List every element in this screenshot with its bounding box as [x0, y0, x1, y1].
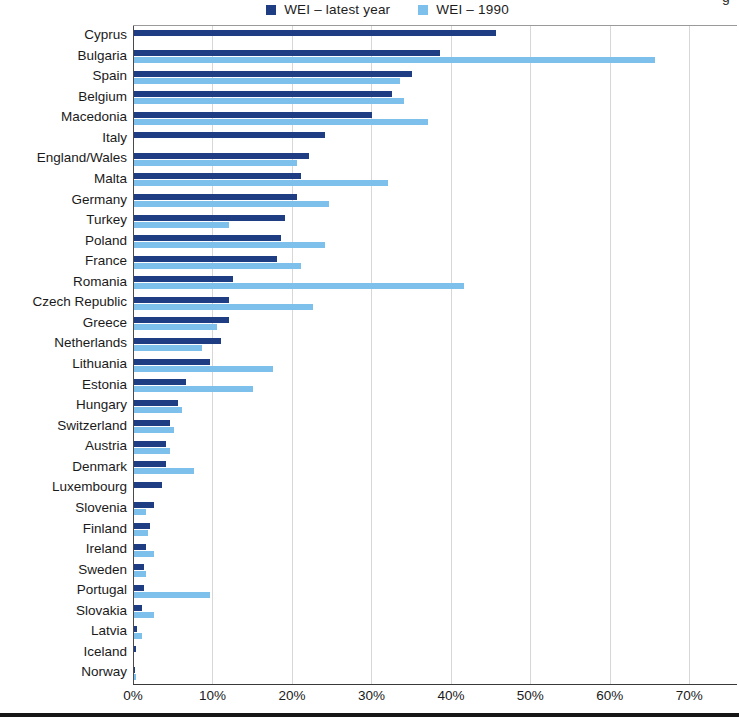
category-label: Iceland	[0, 642, 127, 663]
x-tick-label: 20%	[278, 688, 305, 703]
x-tick-label: 60%	[596, 688, 623, 703]
bar-latest	[134, 30, 496, 36]
bar-latest	[134, 605, 142, 611]
bar-1990	[134, 180, 388, 186]
category-label: Italy	[0, 128, 127, 149]
category-label: Sweden	[0, 560, 127, 581]
bar-1990	[134, 119, 428, 125]
bar-1990	[134, 242, 325, 248]
bar-1990	[134, 551, 154, 557]
bar-1990	[134, 674, 136, 680]
bar-latest	[134, 646, 136, 652]
bar-1990	[134, 263, 301, 269]
bar-1990	[134, 366, 273, 372]
bar-latest	[134, 276, 233, 282]
category-label: Portugal	[0, 580, 127, 601]
category-axis: CyprusBulgariaSpainBelgiumMacedoniaItaly…	[0, 25, 127, 683]
bar-latest	[134, 132, 325, 138]
bar-1990	[134, 468, 194, 474]
bar-1990	[134, 407, 182, 413]
bar-latest	[134, 215, 285, 221]
x-tick-label: 10%	[199, 688, 226, 703]
x-tick-label: 70%	[676, 688, 703, 703]
bar-latest	[134, 359, 210, 365]
bar-latest	[134, 420, 170, 426]
bar-latest	[134, 50, 440, 56]
category-label: Bulgaria	[0, 46, 127, 67]
plot-area	[133, 25, 737, 685]
chart-legend: WEI – latest year WEI – 1990	[0, 2, 739, 17]
gridline-50	[530, 26, 531, 684]
category-label: Czech Republic	[0, 292, 127, 313]
bar-latest	[134, 626, 137, 632]
bar-1990	[134, 448, 170, 454]
bar-latest	[134, 400, 178, 406]
category-label: England/Wales	[0, 148, 127, 169]
category-label: Spain	[0, 66, 127, 87]
category-label: Belgium	[0, 87, 127, 108]
category-label: Norway	[0, 662, 127, 683]
bar-latest	[134, 173, 301, 179]
legend-label-latest: WEI – latest year	[284, 2, 390, 17]
category-label: Latvia	[0, 621, 127, 642]
value-axis: 0%10%20%30%40%50%60%70%	[133, 688, 737, 708]
category-label: Austria	[0, 436, 127, 457]
category-label: Lithuania	[0, 354, 127, 375]
bar-latest	[134, 153, 309, 159]
bar-1990	[134, 304, 313, 310]
bar-latest	[134, 544, 146, 550]
gridline-70	[689, 26, 690, 684]
bar-latest	[134, 297, 229, 303]
bar-latest	[134, 91, 392, 97]
category-label: Romania	[0, 272, 127, 293]
bar-1990	[134, 509, 146, 515]
bar-1990	[134, 571, 146, 577]
bar-1990	[134, 612, 154, 618]
bar-1990	[134, 386, 253, 392]
category-label: Switzerland	[0, 416, 127, 437]
legend-label-1990: WEI – 1990	[436, 2, 509, 17]
category-label: Slovakia	[0, 601, 127, 622]
bar-latest	[134, 317, 229, 323]
bar-latest	[134, 585, 144, 591]
category-label: Poland	[0, 231, 127, 252]
legend-swatch-1990-icon	[418, 5, 428, 15]
category-label: Cyprus	[0, 25, 127, 46]
category-label: France	[0, 251, 127, 272]
legend-entry-latest: WEI – latest year	[266, 2, 390, 17]
x-tick-label: 40%	[437, 688, 464, 703]
category-label: Germany	[0, 190, 127, 211]
category-label: Luxembourg	[0, 477, 127, 498]
bar-1990	[134, 592, 210, 598]
bar-1990	[134, 324, 217, 330]
bar-latest	[134, 71, 412, 77]
x-tick-label: 0%	[123, 688, 143, 703]
cropped-text-fragment: g	[722, 0, 738, 6]
bar-latest	[134, 338, 221, 344]
bar-1990	[134, 222, 229, 228]
bar-1990	[134, 160, 297, 166]
bottom-rule	[0, 713, 739, 717]
category-label: Finland	[0, 519, 127, 540]
bar-1990	[134, 283, 464, 289]
bar-latest	[134, 379, 186, 385]
bar-chart: WEI – latest year WEI – 1990 CyprusBulga…	[0, 0, 739, 719]
bar-1990	[134, 57, 655, 63]
category-label: Turkey	[0, 210, 127, 231]
x-tick-label: 50%	[517, 688, 544, 703]
category-label: Denmark	[0, 457, 127, 478]
bar-latest	[134, 482, 162, 488]
legend-entry-1990: WEI – 1990	[418, 2, 509, 17]
bar-latest	[134, 667, 135, 673]
category-label: Malta	[0, 169, 127, 190]
category-label: Ireland	[0, 539, 127, 560]
bar-1990	[134, 345, 202, 351]
bar-1990	[134, 530, 148, 536]
bar-latest	[134, 523, 150, 529]
category-label: Slovenia	[0, 498, 127, 519]
category-label: Hungary	[0, 395, 127, 416]
gridline-60	[610, 26, 611, 684]
legend-swatch-latest-icon	[266, 5, 276, 15]
bar-1990	[134, 633, 142, 639]
bar-1990	[134, 427, 174, 433]
